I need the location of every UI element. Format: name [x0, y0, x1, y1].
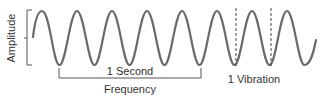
amplitude-label: Amplitude	[6, 8, 17, 68]
amplitude-bracket	[24, 10, 32, 65]
one-second-label: 1 Second	[107, 66, 153, 77]
frequency-label: Frequency	[104, 84, 156, 95]
sine-wave	[33, 11, 316, 65]
wave-diagram: Amplitude 1 Second Frequency 1 Vibration	[0, 0, 325, 99]
one-vibration-label: 1 Vibration	[228, 74, 280, 85]
